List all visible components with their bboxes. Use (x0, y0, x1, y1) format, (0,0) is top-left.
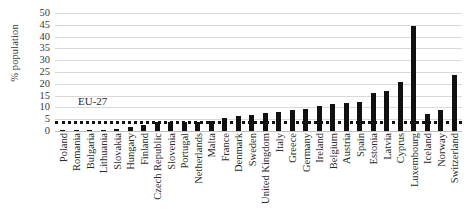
y-tick-35: 35 (40, 43, 51, 53)
bar (330, 104, 335, 131)
x-tick-label: Belgium (327, 133, 338, 169)
x-tick-label: Italy (273, 133, 284, 152)
x-tick-label: Sweden (246, 133, 257, 166)
x-label-slot: Luxembourg (407, 133, 421, 219)
x-tick-label: France (219, 133, 230, 162)
bar-slot (151, 13, 165, 131)
x-label-slot: Estonia (367, 133, 381, 219)
x-label-slot: Finland (137, 133, 151, 219)
x-tick-label: Lithuania (98, 133, 109, 173)
y-tick-0: 0 (45, 126, 50, 136)
bar-slot (178, 13, 192, 131)
bar (371, 93, 376, 131)
bar-chart-figure: % population 50454035302520151050 EU-27 … (0, 0, 467, 219)
bar (357, 102, 362, 132)
x-tick-label: Portugal (179, 133, 190, 169)
bar-slot (245, 13, 259, 131)
bar-slot (380, 13, 394, 131)
bar (317, 106, 322, 131)
bar (74, 130, 79, 131)
bar-slot (259, 13, 273, 131)
x-label-slot: Greece (286, 133, 300, 219)
bar-slot (218, 13, 232, 131)
x-tick-label: Finland (138, 133, 149, 165)
bar-slot (232, 13, 246, 131)
plot-area: EU-27 (55, 13, 462, 131)
bar-slot (326, 13, 340, 131)
x-label-slot: Cyprus (394, 133, 408, 219)
x-tick-label: Slovenia (165, 133, 176, 170)
x-label-slot: Bulgaria (83, 133, 97, 219)
bar (60, 130, 65, 131)
bar-slot (205, 13, 219, 131)
x-label-slot: Austria (340, 133, 354, 219)
eu-27-reference-label: EU-27 (78, 95, 107, 107)
bar (114, 129, 119, 131)
x-tick-label: Luxembourg (408, 133, 419, 187)
x-tick-label: Austria (341, 133, 352, 164)
bar (411, 26, 416, 131)
eu-27-reference-line (55, 121, 462, 124)
bar-slot (70, 13, 84, 131)
x-label-slot: France (218, 133, 232, 219)
bar-slot (97, 13, 111, 131)
bar-slot (299, 13, 313, 131)
bar-series (55, 13, 462, 131)
x-label-slot: Hungary (124, 133, 138, 219)
x-label-slot: Slovakia (110, 133, 124, 219)
x-tick-label: Spain (354, 133, 365, 157)
y-tick-25: 25 (40, 67, 51, 77)
y-tick-40: 40 (40, 32, 51, 42)
x-label-slot: Slovenia (164, 133, 178, 219)
x-tick-label: Poland (57, 133, 68, 162)
bar-slot (340, 13, 354, 131)
x-tick-label: United Kingdom (260, 133, 271, 204)
x-tick-label: Switzerland (449, 133, 460, 183)
x-label-slot: Switzerland (448, 133, 462, 219)
bar-slot (407, 13, 421, 131)
bar-slot (137, 13, 151, 131)
x-label-slot: Italy (272, 133, 286, 219)
x-tick-label: Slovakia (111, 133, 122, 170)
x-tick-label: Czech Republic (152, 133, 163, 200)
y-tick-30: 30 (40, 55, 51, 65)
x-tick-label: Denmark (233, 133, 244, 172)
x-label-slot: Belgium (326, 133, 340, 219)
bar-slot (448, 13, 462, 131)
x-label-slot: Latvia (380, 133, 394, 219)
y-axis-tick-labels: 50454035302520151050 (0, 13, 53, 131)
x-label-slot: Portugal (178, 133, 192, 219)
x-label-slot: Poland (56, 133, 70, 219)
x-label-slot: Iceland (421, 133, 435, 219)
x-tick-label: Iceland (422, 133, 433, 164)
bar (101, 130, 106, 131)
x-label-slot: United Kingdom (259, 133, 273, 219)
bar-slot (110, 13, 124, 131)
bar (384, 91, 389, 131)
x-label-slot: Lithuania (97, 133, 111, 219)
x-tick-label: Malta (206, 133, 217, 158)
x-label-slot: Norway (434, 133, 448, 219)
x-tick-label: Greece (287, 133, 298, 163)
bar-slot (394, 13, 408, 131)
x-tick-label: Cyprus (395, 133, 406, 163)
bar-slot (434, 13, 448, 131)
x-label-slot: Sweden (245, 133, 259, 219)
bar-slot (191, 13, 205, 131)
bar-slot (313, 13, 327, 131)
x-label-slot: Ireland (313, 133, 327, 219)
x-tick-label: Bulgaria (84, 133, 95, 169)
x-tick-label: Ireland (314, 133, 325, 163)
bar (87, 130, 92, 131)
bar-slot (164, 13, 178, 131)
bar-slot (83, 13, 97, 131)
bar-slot (421, 13, 435, 131)
bar-slot (286, 13, 300, 131)
bar-slot (353, 13, 367, 131)
x-label-slot: Netherlands (191, 133, 205, 219)
bar-slot (124, 13, 138, 131)
y-tick-45: 45 (40, 20, 51, 30)
x-label-slot: Malta (205, 133, 219, 219)
x-tick-label: Norway (435, 133, 446, 167)
x-label-slot: Germany (299, 133, 313, 219)
